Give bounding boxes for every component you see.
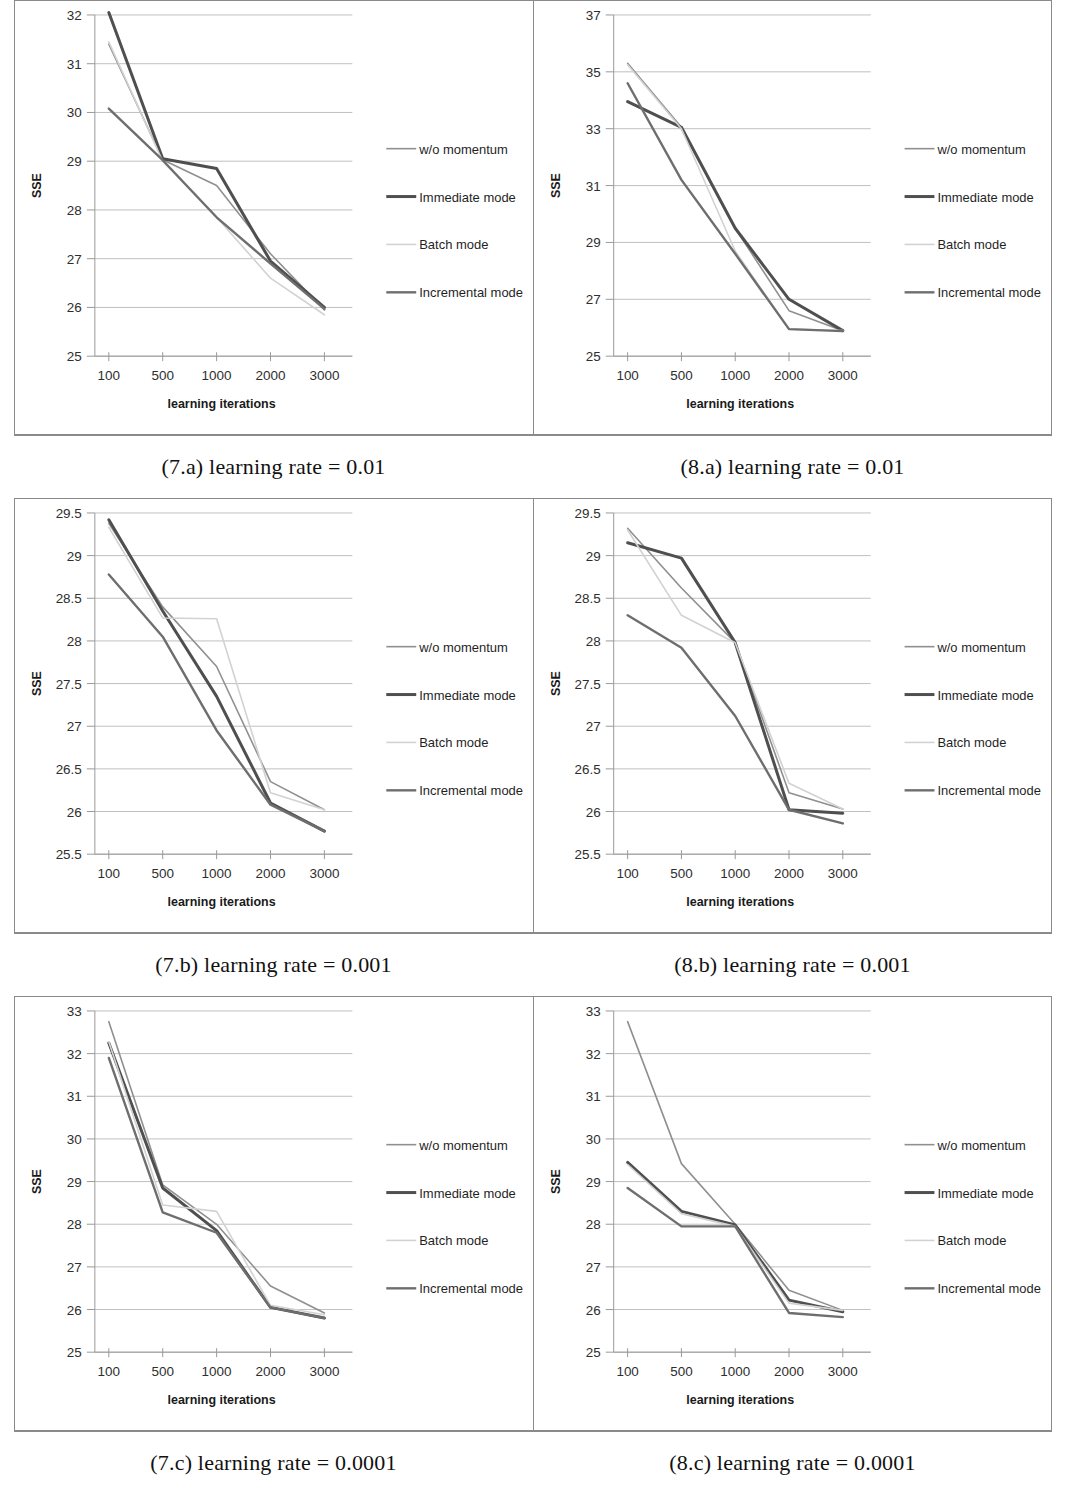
legend-label: w/o momentum <box>936 640 1025 655</box>
y-tick-label: 28.5 <box>56 591 82 606</box>
x-tick-label: 1000 <box>202 866 232 881</box>
legend-label: w/o momentum <box>418 1138 508 1153</box>
series-line <box>109 520 325 831</box>
caption-8b-text: (8.b) learning rate = 0.001 <box>674 952 911 978</box>
x-axis-title: learning iterations <box>686 1393 794 1407</box>
y-tick-label: 29.5 <box>56 506 82 521</box>
y-tick-label: 33 <box>67 1004 82 1019</box>
y-tick-label: 26.5 <box>575 762 601 777</box>
series-line <box>628 543 843 813</box>
chart-panel-7b: 25.52626.52727.52828.52929.5100500100020… <box>15 499 533 932</box>
y-tick-label: 31 <box>586 1089 601 1104</box>
y-axis-title: SSE <box>30 671 44 696</box>
panel-pair-a: 2526272829303132100500100020003000SSElea… <box>14 0 1052 436</box>
x-axis-title: learning iterations <box>168 1393 276 1407</box>
series-line <box>628 1162 843 1311</box>
caption-7a: (7.a) learning rate = 0.01 <box>14 454 533 480</box>
panel-pair-b: 25.52626.52727.52828.52929.5100500100020… <box>14 498 1052 934</box>
y-tick-label: 28 <box>67 1217 82 1232</box>
x-tick-label: 500 <box>151 1364 173 1379</box>
y-tick-label: 26 <box>67 805 82 820</box>
series-line <box>628 102 843 331</box>
caption-7a-text: (7.a) learning rate = 0.01 <box>161 454 385 480</box>
y-tick-label: 25 <box>67 349 82 364</box>
y-tick-label: 32 <box>67 1047 82 1062</box>
line-chart-7a: 2526272829303132100500100020003000SSElea… <box>15 1 533 434</box>
x-tick-label: 500 <box>670 866 692 881</box>
x-tick-label: 500 <box>151 368 173 383</box>
legend-label: Incremental mode <box>419 783 523 798</box>
chart-panel-7a: 2526272829303132100500100020003000SSElea… <box>15 1 533 434</box>
x-tick-label: 2000 <box>256 1364 286 1379</box>
panel-pair-c: 252627282930313233100500100020003000SSEl… <box>14 996 1052 1432</box>
legend-label: Immediate mode <box>937 190 1033 205</box>
y-tick-label: 30 <box>67 1132 82 1147</box>
y-tick-label: 27 <box>67 1260 82 1275</box>
chart-panel-8c: 252627282930313233100500100020003000SSEl… <box>533 997 1051 1430</box>
y-tick-label: 29 <box>67 549 82 564</box>
y-tick-label: 29 <box>67 1175 82 1190</box>
y-tick-label: 27 <box>586 1260 601 1275</box>
y-tick-label: 27 <box>67 719 82 734</box>
y-tick-label: 25 <box>586 349 601 364</box>
caption-8c-text: (8.c) learning rate = 0.0001 <box>669 1450 915 1476</box>
legend-label: w/o momentum <box>418 142 508 157</box>
x-tick-label: 3000 <box>828 368 858 383</box>
y-tick-label: 37 <box>586 8 601 23</box>
legend-label: Incremental mode <box>419 285 523 300</box>
y-tick-label: 29 <box>67 154 82 169</box>
y-tick-label: 28 <box>67 203 82 218</box>
x-tick-label: 1000 <box>720 866 750 881</box>
series-line <box>628 528 843 809</box>
y-tick-label: 30 <box>586 1132 601 1147</box>
x-tick-label: 100 <box>616 1364 638 1379</box>
y-tick-label: 29 <box>586 1175 601 1190</box>
figure-row-a: 2526272829303132100500100020003000SSElea… <box>14 0 1052 498</box>
x-axis-title: learning iterations <box>686 895 794 909</box>
y-tick-label: 27.5 <box>575 677 601 692</box>
caption-pair-b: (7.b) learning rate = 0.001 (8.b) learni… <box>14 934 1052 996</box>
y-tick-label: 28.5 <box>575 591 601 606</box>
line-chart-8c: 252627282930313233100500100020003000SSEl… <box>534 997 1051 1430</box>
y-tick-label: 31 <box>67 57 82 72</box>
y-tick-label: 25 <box>586 1345 601 1360</box>
x-tick-label: 2000 <box>774 368 804 383</box>
x-tick-label: 3000 <box>309 1364 339 1379</box>
y-tick-label: 28 <box>67 634 82 649</box>
x-tick-label: 3000 <box>828 866 858 881</box>
y-tick-label: 27 <box>586 292 601 307</box>
x-tick-label: 1000 <box>202 1364 232 1379</box>
y-axis-title: SSE <box>549 173 563 198</box>
y-tick-label: 29 <box>586 235 601 250</box>
legend-label: Immediate mode <box>419 688 516 703</box>
y-tick-label: 29.5 <box>575 506 601 521</box>
caption-pair-c: (7.c) learning rate = 0.0001 (8.c) learn… <box>14 1432 1052 1494</box>
x-tick-label: 500 <box>670 1364 692 1379</box>
y-tick-label: 26 <box>67 300 82 315</box>
x-tick-label: 100 <box>616 866 638 881</box>
x-tick-label: 3000 <box>309 368 339 383</box>
legend-label: Batch mode <box>937 237 1006 252</box>
legend-label: Batch mode <box>937 735 1006 750</box>
y-tick-label: 28 <box>586 634 601 649</box>
series-line <box>109 44 325 310</box>
series-line <box>109 1022 325 1313</box>
y-tick-label: 31 <box>67 1089 82 1104</box>
y-tick-label: 27 <box>586 719 601 734</box>
legend-label: Incremental mode <box>419 1281 523 1296</box>
legend-label: Immediate mode <box>937 1186 1033 1201</box>
x-axis-title: learning iterations <box>686 397 794 411</box>
y-tick-label: 26 <box>586 1303 601 1318</box>
chart-panel-8a: 25272931333537100500100020003000SSElearn… <box>533 1 1051 434</box>
x-tick-label: 2000 <box>256 866 286 881</box>
caption-8c: (8.c) learning rate = 0.0001 <box>533 1450 1052 1476</box>
series-line <box>109 42 325 315</box>
series-line <box>628 83 843 331</box>
legend-label: Batch mode <box>937 1233 1006 1248</box>
series-line <box>109 523 325 810</box>
y-tick-label: 28 <box>586 1217 601 1232</box>
x-tick-label: 500 <box>670 368 692 383</box>
caption-7c-text: (7.c) learning rate = 0.0001 <box>150 1450 396 1476</box>
y-tick-label: 27.5 <box>56 677 82 692</box>
x-tick-label: 3000 <box>309 866 339 881</box>
